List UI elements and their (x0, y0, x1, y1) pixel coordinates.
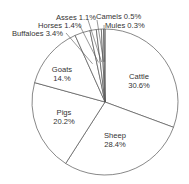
label-goats-name: Goats (52, 65, 72, 74)
pie-slices (32, 29, 178, 175)
label-pigs-pct: 20.2% (53, 117, 75, 126)
label-asses: Asses 1.1% (56, 13, 96, 22)
pie-chart: Cattle 30.6% Sheep 28.4% Pigs 20.2% Goat… (0, 0, 189, 184)
label-pigs-name: Pigs (57, 108, 72, 117)
label-camels: Camels 0.5% (96, 12, 141, 21)
label-cattle-name: Cattle (129, 72, 149, 81)
label-cattle-pct: 30.6% (128, 81, 150, 90)
label-buffaloes: Buffaloes 3.4% (12, 29, 63, 38)
label-sheep-pct: 28.4% (104, 140, 126, 149)
label-sheep-name: Sheep (104, 131, 126, 140)
label-mules: Mules 0.3% (105, 21, 145, 30)
label-horses: Horses 1.4% (38, 21, 82, 30)
label-goats-pct: 14.% (53, 74, 71, 83)
